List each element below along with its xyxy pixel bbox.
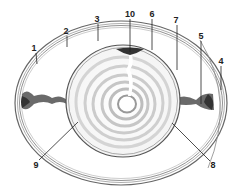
label-7: 7 — [173, 16, 178, 25]
label-2: 2 — [63, 27, 68, 36]
yolk — [66, 45, 180, 157]
label-4: 4 — [218, 57, 223, 66]
label-8: 8 — [210, 161, 215, 170]
label-1: 1 — [31, 44, 36, 53]
egg-diagram: 1 2 3 10 6 7 5 4 9 8 — [0, 0, 237, 191]
label-9: 9 — [33, 161, 38, 170]
label-6: 6 — [149, 10, 154, 19]
label-5: 5 — [198, 32, 203, 41]
label-10: 10 — [125, 10, 135, 19]
label-3: 3 — [94, 15, 99, 24]
